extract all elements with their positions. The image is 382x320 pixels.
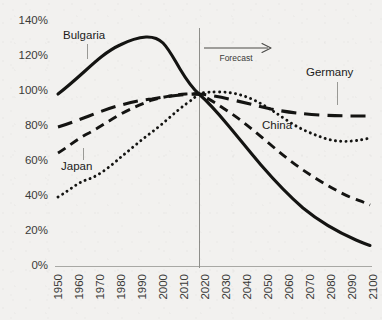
y-tick-0: 0% (31, 259, 48, 271)
y-tick-120: 120% (19, 49, 48, 61)
x-tick-1980: 1980 (115, 274, 127, 300)
x-tick-2020: 2020 (199, 274, 211, 300)
y-tick-100: 100% (19, 84, 48, 96)
x-tick-2060: 2060 (283, 274, 295, 300)
x-axis-tick-labels: 1950 1960 1970 1980 1990 2000 2010 2020 … (52, 274, 379, 300)
y-tick-20: 20% (25, 224, 48, 236)
series-label-germany: Germany (306, 66, 354, 78)
x-tick-2000: 2000 (157, 274, 169, 300)
x-tick-2090: 2090 (346, 274, 358, 300)
x-tick-2070: 2070 (304, 274, 316, 300)
x-tick-1960: 1960 (73, 274, 85, 300)
x-tick-2010: 2010 (178, 274, 190, 300)
x-tick-2030: 2030 (220, 274, 232, 300)
y-tick-80: 80% (25, 119, 48, 131)
y-tick-60: 60% (25, 154, 48, 166)
forecast-label: Forecast (219, 53, 253, 63)
series-label-china: China (262, 119, 293, 131)
series-label-bulgaria: Bulgaria (63, 29, 106, 41)
y-tick-40: 40% (25, 189, 48, 201)
x-tick-2080: 2080 (325, 274, 337, 300)
series-label-japan: Japan (61, 160, 92, 172)
x-tick-2040: 2040 (241, 274, 253, 300)
x-tick-2050: 2050 (262, 274, 274, 300)
y-axis-tick-labels: 140% 120% 100% 80% 60% 40% 20% 0% (19, 14, 48, 271)
x-tick-1950: 1950 (52, 274, 64, 300)
x-tick-1970: 1970 (94, 274, 106, 300)
x-tick-2100: 2100 (367, 274, 379, 300)
forecast-arrow-icon (204, 44, 271, 53)
y-tick-140: 140% (19, 14, 48, 26)
chart-canvas: 140% 120% 100% 80% 60% 40% 20% 0% Foreca… (0, 0, 382, 320)
x-tick-1990: 1990 (136, 274, 148, 300)
population-index-chart: 140% 120% 100% 80% 60% 40% 20% 0% Foreca… (0, 0, 382, 320)
